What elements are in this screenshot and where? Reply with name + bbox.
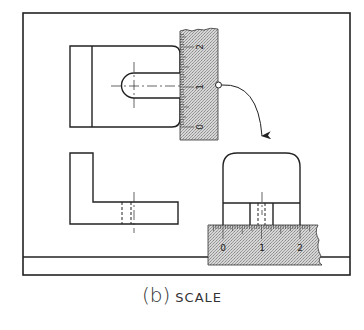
vertical-scale-label-1: 1: [195, 84, 205, 90]
top-view: [70, 46, 195, 127]
horizontal-scale-label-0: 0: [220, 243, 226, 253]
transfer-arrow: [222, 85, 262, 136]
horizontal-scale-label-1: 1: [259, 243, 265, 253]
side-view: [223, 153, 300, 225]
horizontal-scale-label-2: 2: [297, 243, 303, 253]
vertical-scale-label-2: 2: [195, 44, 205, 50]
horizontal-scale: 0 1 2: [208, 225, 322, 265]
caption-word: SCALE: [175, 290, 222, 305]
figure-caption: (b) SCALE: [0, 283, 364, 307]
caption-letter: (b): [142, 283, 170, 307]
transfer-point-circle: [216, 82, 222, 88]
technical-drawing: 2 1 0 0 1 2: [0, 0, 364, 330]
vertical-scale: 2 1 0: [180, 28, 218, 140]
front-view: [70, 153, 178, 233]
vertical-scale-label-0: 0: [195, 124, 205, 130]
